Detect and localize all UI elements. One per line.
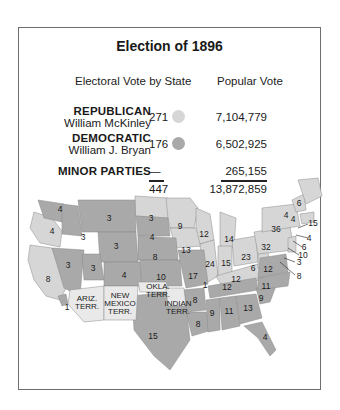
svg-text:3: 3 — [91, 263, 96, 273]
svg-text:12: 12 — [263, 264, 273, 274]
svg-text:3: 3 — [66, 260, 71, 270]
svg-text:TERR.: TERR. — [108, 307, 132, 316]
svg-text:3: 3 — [107, 213, 112, 223]
svg-text:1: 1 — [203, 280, 208, 290]
svg-text:32: 32 — [261, 242, 271, 252]
state-new-jersey-delaware-maryland — [288, 236, 296, 252]
svg-text:11: 11 — [262, 281, 271, 291]
svg-text:36: 36 — [271, 224, 281, 234]
svg-text:6: 6 — [297, 198, 302, 208]
svg-text:1: 1 — [65, 302, 70, 312]
svg-text:TERR.: TERR. — [146, 290, 170, 299]
svg-text:9: 9 — [259, 293, 264, 303]
svg-text:12: 12 — [231, 274, 241, 284]
svg-text:15: 15 — [308, 218, 318, 228]
svg-text:4: 4 — [50, 226, 55, 236]
us-electoral-map: 4 4 8 3 3 3 3 3 4 3 4 8 10 15 9 13 17 8 … — [0, 0, 340, 410]
svg-text:10: 10 — [156, 272, 166, 282]
svg-text:4: 4 — [291, 214, 296, 224]
svg-text:13: 13 — [181, 245, 191, 255]
svg-text:3: 3 — [297, 257, 302, 267]
state-nebraska — [138, 236, 178, 260]
svg-text:15: 15 — [148, 331, 158, 341]
svg-text:9: 9 — [210, 308, 215, 318]
svg-text:8: 8 — [153, 252, 158, 262]
svg-text:TERR.: TERR. — [75, 302, 99, 311]
svg-text:3: 3 — [81, 232, 86, 242]
svg-text:4: 4 — [122, 270, 127, 280]
svg-text:24: 24 — [205, 259, 215, 269]
state-florida — [244, 322, 276, 356]
svg-text:3: 3 — [114, 241, 119, 251]
svg-text:TERR.: TERR. — [166, 307, 190, 316]
svg-text:15: 15 — [221, 258, 231, 268]
svg-text:4: 4 — [284, 210, 289, 220]
svg-text:4: 4 — [150, 232, 155, 242]
svg-text:9: 9 — [178, 221, 183, 231]
svg-text:8: 8 — [46, 274, 51, 284]
svg-text:12: 12 — [222, 282, 232, 292]
svg-text:4: 4 — [263, 332, 268, 342]
svg-text:6: 6 — [251, 263, 256, 273]
svg-text:8: 8 — [196, 319, 201, 329]
svg-text:4: 4 — [58, 204, 63, 214]
svg-text:12: 12 — [199, 229, 209, 239]
svg-text:8: 8 — [297, 271, 302, 281]
svg-text:4: 4 — [307, 233, 312, 243]
svg-text:14: 14 — [224, 234, 234, 244]
svg-text:3: 3 — [149, 213, 154, 223]
svg-text:17: 17 — [188, 271, 198, 281]
svg-text:11: 11 — [225, 306, 234, 316]
svg-text:23: 23 — [241, 252, 251, 262]
svg-text:13: 13 — [243, 303, 253, 313]
svg-text:8: 8 — [193, 295, 198, 305]
